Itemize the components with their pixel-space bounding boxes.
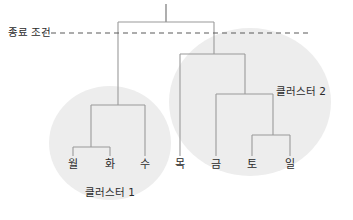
threshold-label: 종료 조건 <box>8 26 51 38</box>
leaf-label-2: 수 <box>140 158 150 171</box>
leaf-label-6: 일 <box>285 157 295 171</box>
cluster-1-blob <box>49 86 171 200</box>
leaf-label-5: 토 <box>247 158 257 171</box>
dendrogram-figure: 월화수목금토일 종료 조건 클러스터 1 클러스터 2 <box>0 0 353 220</box>
cluster-2-label: 클러스터 2 <box>276 85 326 97</box>
leaf-label-4: 금 <box>211 158 221 171</box>
leaf-label-1: 화 <box>105 158 115 171</box>
leaf-label-3: 목 <box>175 158 185 171</box>
leaf-label-0: 월 <box>68 158 78 171</box>
cluster-1-label: 클러스터 1 <box>85 186 135 198</box>
dendrogram-canvas: 월화수목금토일 종료 조건 클러스터 1 클러스터 2 <box>0 0 353 220</box>
cluster-2-blob <box>169 28 331 176</box>
